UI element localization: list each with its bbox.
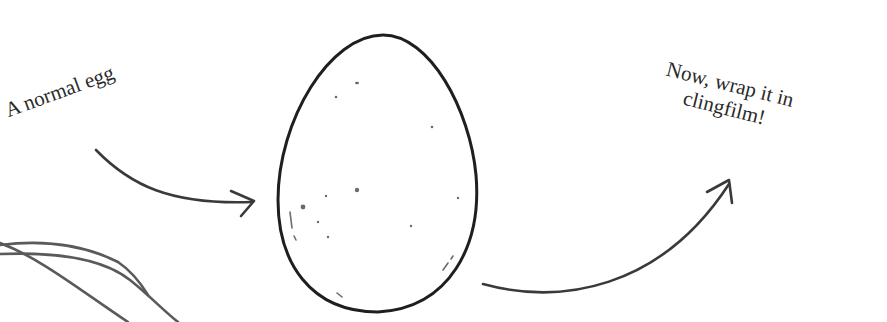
egg-outline [278,35,477,312]
egg [278,35,477,312]
left-arrow-icon [96,150,254,216]
right-arrow-icon [483,180,732,292]
clingfilm-curves [0,243,178,322]
drawing-layer [0,0,887,322]
illustration-canvas: A normal egg Now, wrap it in clingfilm! [0,0,887,322]
